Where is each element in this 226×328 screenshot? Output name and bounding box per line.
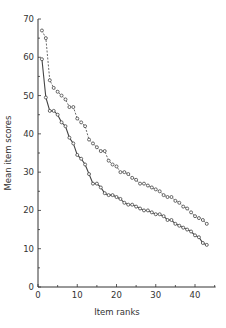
data-point-marker (205, 243, 208, 246)
data-point-marker (80, 157, 83, 160)
data-point-marker (64, 125, 67, 128)
data-point-marker (76, 117, 79, 120)
data-point-marker (174, 222, 177, 225)
data-point-marker (194, 234, 197, 237)
data-point-marker (88, 138, 91, 141)
data-point-marker (190, 211, 193, 214)
data-point-marker (146, 209, 149, 212)
data-point-marker (103, 150, 106, 153)
data-point-marker (40, 29, 43, 32)
data-point-marker (111, 194, 114, 197)
data-point-marker (194, 215, 197, 218)
data-point-marker (142, 182, 145, 185)
data-point-marker (56, 90, 59, 93)
y-axis-label: Mean item scores (3, 115, 13, 191)
data-point-marker (64, 98, 67, 101)
data-point-marker (84, 125, 87, 128)
data-point-marker (162, 194, 165, 197)
line-chart: 010203040506070010203040 Item ranks Mean… (0, 0, 226, 328)
data-point-marker (166, 219, 169, 222)
data-point-marker (84, 163, 87, 166)
data-point-marker (91, 142, 94, 145)
series-line (42, 59, 207, 245)
data-point-marker (178, 201, 181, 204)
data-point-marker (150, 186, 153, 189)
data-point-marker (72, 106, 75, 109)
data-point-marker (72, 142, 75, 145)
data-point-marker (52, 86, 55, 89)
data-point-marker (115, 165, 118, 168)
data-point-marker (166, 196, 169, 199)
data-point-marker (154, 188, 157, 191)
data-point-marker (52, 109, 55, 112)
x-tick-label: 40 (190, 290, 201, 300)
data-point-marker (48, 109, 51, 112)
data-point-marker (135, 178, 138, 181)
x-tick-label: 0 (35, 290, 40, 300)
x-tick-label: 20 (111, 290, 122, 300)
data-point-marker (139, 207, 142, 210)
chart-series (40, 29, 208, 246)
data-point-marker (182, 226, 185, 229)
data-point-marker (99, 186, 102, 189)
data-point-marker (197, 236, 200, 239)
y-tick-label: 70 (23, 14, 34, 24)
data-point-marker (115, 196, 118, 199)
data-point-marker (91, 182, 94, 185)
data-point-marker (123, 171, 126, 174)
data-point-marker (201, 241, 204, 244)
data-point-marker (131, 203, 134, 206)
y-tick-label: 50 (23, 91, 34, 101)
series-lower-solid (40, 58, 208, 247)
data-point-marker (107, 159, 110, 162)
data-point-marker (178, 224, 181, 227)
data-point-marker (201, 219, 204, 222)
data-point-marker (103, 192, 106, 195)
data-point-marker (107, 194, 110, 197)
y-tick-label: 30 (23, 167, 34, 177)
data-point-marker (135, 205, 138, 208)
data-point-marker (44, 96, 47, 99)
data-point-marker (95, 146, 98, 149)
data-point-marker (44, 37, 47, 40)
data-point-marker (170, 196, 173, 199)
data-point-marker (174, 199, 177, 202)
data-point-marker (158, 213, 161, 216)
data-point-marker (60, 94, 63, 97)
data-point-marker (88, 173, 91, 176)
data-point-marker (170, 219, 173, 222)
data-point-marker (80, 121, 83, 124)
data-point-marker (68, 136, 71, 139)
data-point-marker (182, 205, 185, 208)
y-tick-label: 0 (29, 282, 34, 292)
data-point-marker (186, 228, 189, 231)
data-point-marker (139, 182, 142, 185)
data-point-marker (150, 211, 153, 214)
data-point-marker (197, 217, 200, 220)
data-point-marker (127, 203, 130, 206)
y-tick-label: 60 (23, 52, 34, 62)
y-tick-label: 10 (23, 244, 34, 254)
data-point-marker (48, 79, 51, 82)
data-point-marker (40, 58, 43, 61)
y-tick-label: 20 (23, 205, 34, 215)
data-point-marker (162, 215, 165, 218)
x-axis-label: Item ranks (94, 307, 140, 317)
data-point-marker (186, 207, 189, 210)
data-point-marker (154, 213, 157, 216)
data-point-marker (68, 106, 71, 109)
chart-axes: 010203040506070010203040 (23, 14, 215, 300)
x-tick-label: 10 (72, 290, 83, 300)
data-point-marker (205, 222, 208, 225)
data-point-marker (123, 201, 126, 204)
data-point-marker (111, 163, 114, 166)
data-point-marker (60, 121, 63, 124)
data-point-marker (146, 184, 149, 187)
data-point-marker (158, 190, 161, 193)
data-point-marker (131, 176, 134, 179)
data-point-marker (142, 209, 145, 212)
x-tick-label: 30 (150, 290, 161, 300)
data-point-marker (56, 113, 59, 116)
data-point-marker (99, 150, 102, 153)
data-point-marker (119, 171, 122, 174)
